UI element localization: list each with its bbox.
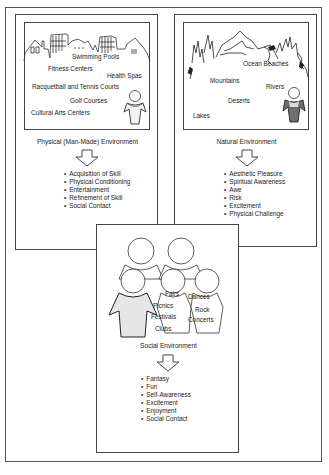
benefit-item: Social Contact — [64, 202, 130, 210]
down-arrow-icon — [156, 354, 180, 372]
place-label: Deserts — [228, 97, 250, 104]
physical-scene: Swimming Pools Fitness Centers Health Sp… — [24, 22, 150, 130]
benefit-item: Fun — [141, 383, 191, 391]
down-arrow-icon — [75, 149, 99, 167]
activity-label: Dances — [188, 293, 210, 300]
place-label: Lakes — [193, 112, 210, 119]
place-label: Swimming Pools — [72, 53, 119, 60]
physical-benefits-list: Acquisition of Skill Physical Conditioni… — [64, 170, 130, 210]
activity-label: Clubs — [155, 325, 171, 332]
panel-title: Physical (Man-Made) Environment — [16, 138, 159, 145]
panel-title: Natural Environment — [175, 138, 318, 145]
benefit-item: Social Contact — [141, 415, 191, 423]
place-label: Cultural Arts Centers — [31, 109, 90, 116]
activity-label: Rock — [195, 306, 210, 313]
benefit-item: Physical Conditioning — [64, 178, 130, 186]
mountains-trees-icon — [184, 23, 310, 83]
physical-environment-panel: Swimming Pools Fitness Centers Health Sp… — [15, 14, 158, 250]
person-figure-icon — [123, 90, 147, 128]
natural-scene: Ocean Beaches Mountains Rivers Deserts L… — [183, 22, 309, 130]
place-label: Fitness Centers — [48, 65, 93, 72]
social-environment-panel: Fairs Picnics Festivals Clubs Dances Roc… — [96, 224, 239, 453]
benefit-item: Refinement of Skill — [64, 194, 130, 202]
benefit-item: Aesthetic Pleasure — [224, 170, 285, 178]
activity-label: Festivals — [151, 313, 176, 320]
person-figure-icon — [282, 87, 306, 125]
social-benefits-list: Fantasy Fun Self-Awareness Excitement En… — [141, 375, 191, 424]
natural-environment-panel: Ocean Beaches Mountains Rivers Deserts L… — [174, 14, 317, 247]
benefit-item: Self-Awareness — [141, 391, 191, 399]
activity-label: Picnics — [153, 302, 173, 309]
down-arrow-icon — [235, 149, 259, 167]
benefit-item: Acquisition of Skill — [64, 170, 130, 178]
benefit-item: Awe — [224, 186, 285, 194]
benefit-item: Excitement — [224, 202, 285, 210]
place-label: Racquetball and Tennis Courts — [32, 83, 119, 90]
benefit-item: Risk — [224, 194, 285, 202]
benefit-item: Excitement — [141, 399, 191, 407]
place-label: Health Spas — [107, 72, 142, 79]
place-label: Mountains — [210, 77, 240, 84]
benefit-item: Spiritual Awareness — [224, 178, 285, 186]
activity-label: Concerts — [188, 316, 214, 323]
place-label: Ocean Beaches — [243, 60, 288, 67]
benefit-item: Entertainment — [64, 186, 130, 194]
activity-label: Fairs — [165, 290, 179, 297]
benefit-item: Physical Challenge — [224, 210, 285, 218]
benefit-item: Fantasy — [141, 375, 191, 383]
place-label: Golf Courses — [70, 97, 107, 104]
natural-benefits-list: Aesthetic Pleasure Spiritual Awareness A… — [224, 170, 285, 219]
benefit-item: Enjoyment — [141, 407, 191, 415]
panel-title: Social Environment — [97, 342, 240, 349]
